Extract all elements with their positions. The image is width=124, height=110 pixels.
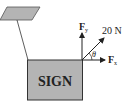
- sign-force-diagram: SIGN Fy Fx 20 N θ: [0, 0, 124, 110]
- ceiling-mount: [0, 7, 40, 20]
- sign-label: SIGN: [38, 74, 72, 89]
- fy-label: Fy: [79, 21, 88, 33]
- fx-label: Fx: [108, 54, 117, 66]
- support-cable: [17, 20, 28, 60]
- angle-label: θ: [92, 50, 96, 59]
- force-label: 20 N: [102, 25, 122, 36]
